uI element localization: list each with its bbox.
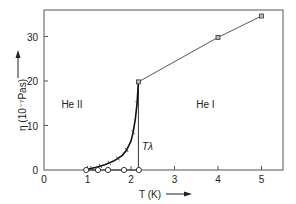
plot-frame [44, 10, 283, 170]
open-circle-point [105, 167, 110, 172]
x-tick-label: 1 [85, 174, 91, 185]
y-axis-arrow [16, 50, 21, 78]
x-axis-title: T (K) [139, 189, 161, 200]
t-lambda-label: Tλ [142, 141, 153, 152]
x-tick-label: 2 [128, 174, 134, 185]
y-tick-label: 30 [27, 32, 39, 43]
x-axis-arrow [166, 192, 192, 197]
open-circle-point [84, 167, 89, 172]
y-tick-label: 10 [27, 121, 39, 132]
y-tick-label: 20 [27, 76, 39, 87]
square-point [136, 80, 140, 84]
phase-label: He I [196, 99, 214, 110]
x-tick-label: 5 [259, 174, 265, 185]
viscosity-chart: 0123450102030 He IIHe ITλ η (10⁻⁷Pas) T … [0, 0, 296, 204]
open-circle-point [95, 167, 100, 172]
square-point [216, 35, 220, 39]
he1-line [138, 16, 261, 82]
x-tick-label: 0 [41, 174, 47, 185]
x-tick-label: 3 [172, 174, 178, 185]
y-tick-label: 0 [32, 165, 38, 176]
y-axis-title: η (10⁻⁷Pas) [17, 79, 28, 131]
square-point [260, 14, 264, 18]
x-tick-label: 4 [215, 174, 221, 185]
open-circle-point [136, 167, 141, 172]
open-circle-point [121, 167, 126, 172]
he2-curve [85, 82, 138, 170]
phase-label: He II [61, 99, 82, 110]
y-axis-title-group: η (10⁻⁷Pas) [17, 79, 28, 131]
